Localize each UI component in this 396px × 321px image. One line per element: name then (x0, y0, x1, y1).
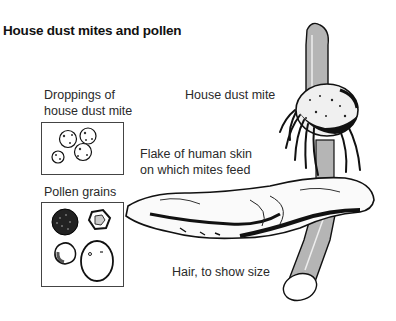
illustration (0, 0, 396, 321)
skin-flake-illustration (126, 178, 374, 239)
pollen-illustration (52, 209, 113, 281)
hair-illustration (280, 23, 340, 305)
droppings-illustration (52, 128, 96, 163)
